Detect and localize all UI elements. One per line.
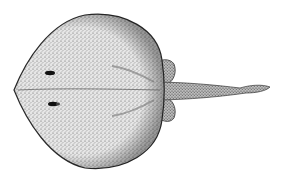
eye-upper (45, 71, 55, 75)
stingray-illustration (0, 0, 285, 182)
tail (150, 82, 270, 100)
